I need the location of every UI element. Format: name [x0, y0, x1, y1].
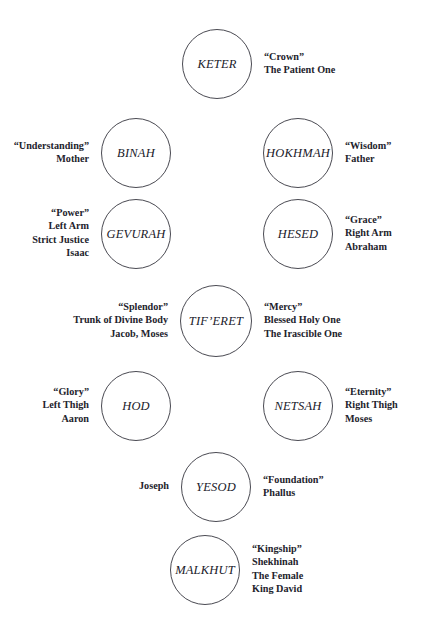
gloss-line: Father — [345, 152, 391, 165]
gloss-right-yesod: “Foundation”Phallus — [263, 473, 324, 500]
sefirah-label-yesod: YESOD — [196, 481, 236, 494]
gloss-line: The Irascible One — [264, 327, 342, 340]
gloss-line: Shekhinah — [252, 555, 303, 568]
sefirah-label-hokhmah: HOKHMAH — [266, 147, 330, 160]
gloss-left-gevurah: “Power”Left ArmStrict JusticeIsaac — [32, 206, 89, 260]
gloss-line: King David — [252, 582, 303, 595]
gloss-line: The Patient One — [264, 63, 335, 76]
sefirah-node-binah: BINAH — [101, 118, 171, 188]
sefirah-label-malkhut: MALKHUT — [175, 564, 235, 577]
gloss-line: Phallus — [263, 486, 324, 499]
gloss-left-hod: “Glory”Left ThighAaron — [42, 385, 89, 425]
sefirah-node-netsah: NETSAH — [263, 371, 333, 441]
gloss-line: Right Arm — [345, 226, 392, 239]
gloss-line: Joseph — [139, 479, 169, 492]
gloss-right-keter: “Crown”The Patient One — [264, 50, 335, 77]
sefirah-node-gevurah: GEVURAH — [101, 199, 171, 269]
sefirah-node-hod: HOD — [101, 371, 171, 441]
gloss-line: “Foundation” — [263, 473, 324, 486]
sefirah-label-tiferet: TIF’ERET — [189, 315, 243, 328]
gloss-line: Moses — [345, 412, 398, 425]
gloss-line: Aaron — [42, 412, 89, 425]
gloss-line: Jacob, Moses — [73, 327, 168, 340]
gloss-left-binah: “Understanding”Mother — [14, 139, 89, 166]
sefirah-node-hokhmah: HOKHMAH — [263, 118, 333, 188]
gloss-left-tiferet: “Splendor”Trunk of Divine BodyJacob, Mos… — [73, 300, 168, 340]
gloss-line: “Kingship” — [252, 542, 303, 555]
gloss-line: “Grace” — [345, 213, 392, 226]
gloss-line: Left Arm — [32, 219, 89, 232]
sefirah-label-gevurah: GEVURAH — [106, 228, 165, 241]
gloss-right-hokhmah: “Wisdom”Father — [345, 139, 391, 166]
gloss-line: “Splendor” — [73, 300, 168, 313]
gloss-line: “Crown” — [264, 50, 335, 63]
sefirah-node-hesed: HESED — [263, 199, 333, 269]
gloss-right-tiferet: “Mercy”Blessed Holy OneThe Irascible One — [264, 300, 342, 340]
sefirah-node-yesod: YESOD — [181, 452, 251, 522]
sefirah-label-binah: BINAH — [117, 147, 155, 160]
gloss-line: The Female — [252, 569, 303, 582]
gloss-left-yesod: Joseph — [139, 479, 169, 492]
gloss-line: “Power” — [32, 206, 89, 219]
sefirah-label-netsah: NETSAH — [274, 400, 321, 413]
gloss-right-malkhut: “Kingship”ShekhinahThe FemaleKing David — [252, 542, 303, 596]
gloss-line: “Mercy” — [264, 300, 342, 313]
gloss-line: “Wisdom” — [345, 139, 391, 152]
gloss-line: Mother — [14, 152, 89, 165]
gloss-right-hesed: “Grace”Right ArmAbraham — [345, 213, 392, 253]
sefirah-label-hesed: HESED — [278, 228, 319, 241]
gloss-line: “Eternity” — [345, 385, 398, 398]
gloss-line: Isaac — [32, 246, 89, 259]
gloss-line: Trunk of Divine Body — [73, 313, 168, 326]
gloss-line: Right Thigh — [345, 398, 398, 411]
sefirah-node-keter: KETER — [182, 29, 252, 99]
sefirah-label-hod: HOD — [122, 400, 150, 413]
sefirot-diagram: KETER“Crown”The Patient OneBINAH“Underst… — [0, 0, 427, 617]
gloss-line: “Understanding” — [14, 139, 89, 152]
gloss-line: “Glory” — [42, 385, 89, 398]
gloss-line: Abraham — [345, 240, 392, 253]
sefirah-node-malkhut: MALKHUT — [170, 535, 240, 605]
sefirah-node-tiferet: TIF’ERET — [180, 285, 252, 357]
gloss-line: Blessed Holy One — [264, 313, 342, 326]
sefirah-label-keter: KETER — [197, 58, 236, 71]
gloss-right-netsah: “Eternity”Right ThighMoses — [345, 385, 398, 425]
gloss-line: Left Thigh — [42, 398, 89, 411]
gloss-line: Strict Justice — [32, 233, 89, 246]
